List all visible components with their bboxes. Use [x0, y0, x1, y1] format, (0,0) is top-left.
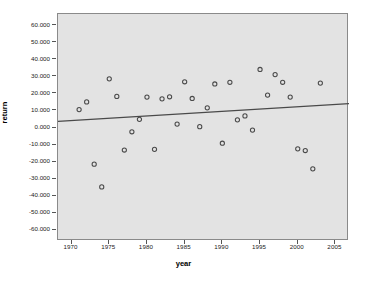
data-point: [145, 95, 149, 99]
scatter-plot-figure: 60.00050.00040.00030.00020.00010.0000.00…: [0, 0, 367, 283]
y-axis-tick-mark: [52, 109, 56, 110]
data-point: [303, 148, 307, 152]
y-axis-tick-label: 30.000: [31, 71, 50, 80]
data-point: [235, 118, 239, 122]
data-point: [107, 77, 111, 81]
y-axis-tick-mark: [52, 144, 56, 145]
x-axis-tick-label: 2000: [290, 243, 304, 250]
y-axis-tick-label: 50.000: [31, 37, 50, 46]
data-point: [296, 147, 300, 151]
y-axis-tick-label: -50.000: [29, 207, 50, 216]
y-axis-tick-mark: [52, 212, 56, 213]
x-axis-tick-label: 1995: [252, 243, 266, 250]
y-axis-tick-label: 40.000: [31, 54, 50, 63]
x-axis-tick-mark: [146, 240, 147, 244]
data-point: [288, 95, 292, 99]
y-axis-tick-mark: [52, 58, 56, 59]
x-axis-tick-mark: [259, 240, 260, 244]
y-axis-tick-mark: [52, 41, 56, 42]
data-point-group: [77, 67, 322, 189]
data-point: [137, 117, 141, 121]
data-point: [198, 125, 202, 129]
data-point: [100, 185, 104, 189]
data-point: [243, 114, 247, 118]
x-axis-tick-mark: [221, 240, 222, 244]
x-axis-tick-label: 1990: [214, 243, 228, 250]
data-point: [265, 93, 269, 97]
y-axis-tick-mark: [52, 75, 56, 76]
plot-canvas: [58, 14, 349, 241]
x-axis-tick-mark: [108, 240, 109, 244]
y-axis-tick-mark: [52, 24, 56, 25]
y-axis-tick-mark: [52, 178, 56, 179]
y-axis-tick-labels: 60.00050.00040.00030.00020.00010.0000.00…: [0, 0, 52, 283]
x-axis-tick-mark: [334, 240, 335, 244]
data-point: [122, 148, 126, 152]
data-point: [281, 80, 285, 84]
data-point: [175, 122, 179, 126]
data-point: [190, 96, 194, 100]
data-point: [92, 162, 96, 166]
data-point: [85, 100, 89, 104]
x-axis-tick-label: 1985: [177, 243, 191, 250]
data-point: [311, 167, 315, 171]
data-point: [115, 94, 119, 98]
data-point: [130, 130, 134, 134]
data-point: [213, 82, 217, 86]
data-point: [250, 128, 254, 132]
x-axis-title: year: [0, 259, 367, 268]
y-axis-tick-mark: [52, 92, 56, 93]
data-point: [160, 97, 164, 101]
data-point: [152, 147, 156, 151]
data-point: [183, 80, 187, 84]
data-point: [167, 95, 171, 99]
data-point: [77, 107, 81, 111]
y-axis-tick-label: -40.000: [29, 190, 50, 199]
y-axis-tick-label: 10.000: [31, 105, 50, 114]
y-axis-tick-mark: [52, 229, 56, 230]
data-point: [220, 141, 224, 145]
y-axis-title: return: [0, 102, 9, 124]
x-axis-tick-label: 2005: [327, 243, 341, 250]
regression-fit-line: [58, 104, 349, 122]
x-axis-tick-label: 1970: [63, 243, 77, 250]
y-axis-tick-mark: [52, 161, 56, 162]
data-point: [273, 72, 277, 76]
y-axis-tick-label: -60.000: [29, 224, 50, 233]
x-axis-tick-mark: [71, 240, 72, 244]
x-axis-tick-labels: 19701975198019851990199520002005: [0, 243, 367, 255]
y-axis-tick-mark: [52, 127, 56, 128]
data-point: [258, 67, 262, 71]
y-axis-tick-label: -20.000: [29, 156, 50, 165]
plot-area: [57, 13, 348, 240]
y-axis-tick-label: -30.000: [29, 173, 50, 182]
data-point: [205, 106, 209, 110]
y-axis-tick-label: 60.000: [31, 20, 50, 29]
data-point: [228, 80, 232, 84]
y-axis-tick-label: 0.000: [35, 122, 50, 131]
y-axis-tick-mark: [52, 195, 56, 196]
x-axis-tick-mark: [297, 240, 298, 244]
y-axis-tick-label: 20.000: [31, 88, 50, 97]
x-axis-tick-label: 1975: [101, 243, 115, 250]
y-axis-tick-label: -10.000: [29, 139, 50, 148]
x-axis-tick-mark: [184, 240, 185, 244]
data-point: [318, 81, 322, 85]
x-axis-tick-label: 1980: [139, 243, 153, 250]
